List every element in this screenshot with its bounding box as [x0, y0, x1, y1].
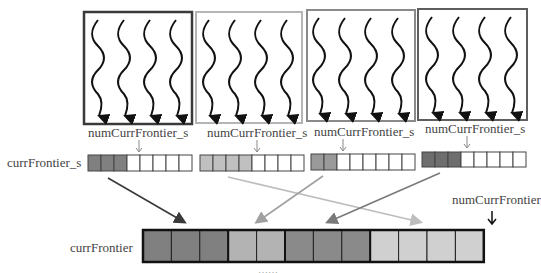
block2-counter-label: numCurrFrontier_s	[207, 125, 307, 141]
global-counter-label: numCurrFrontier	[452, 192, 541, 208]
global-counter-arrow	[488, 211, 496, 224]
arrow-block4	[328, 173, 440, 222]
shared-array-3	[311, 154, 415, 170]
shared-array-1	[88, 155, 192, 171]
block1-counter-label: numCurrFrontier_s	[88, 125, 188, 141]
arrow-block2	[228, 177, 420, 222]
block4-counter-label: numCurrFrontier_s	[425, 121, 525, 137]
arrow-block1	[108, 178, 184, 222]
block3-counter-label: numCurrFrontier_s	[314, 124, 414, 140]
shared-array-label: currFrontier_s	[7, 155, 81, 171]
thread-block-3	[307, 10, 415, 121]
global-array-label: currFrontier	[70, 240, 133, 256]
copy-arrows	[108, 173, 440, 222]
caption: ……	[258, 264, 278, 273]
thread-block-2	[196, 12, 302, 123]
shared-array-4	[422, 152, 526, 167]
arrow-block3	[257, 176, 323, 222]
shared-array-2	[200, 155, 304, 171]
thread-block-1	[84, 12, 192, 124]
thread-block-4	[418, 9, 527, 120]
global-array	[143, 230, 484, 262]
